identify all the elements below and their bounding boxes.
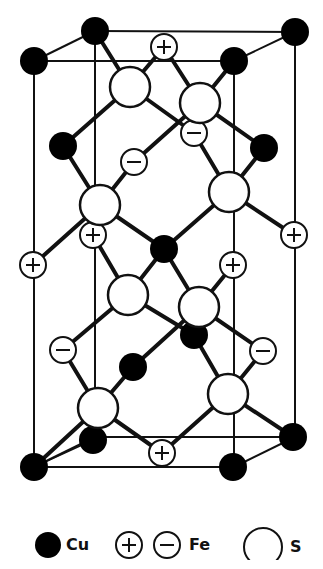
cu-9-atom xyxy=(119,353,147,381)
fe-plus-3-atom xyxy=(281,222,307,248)
cu-13-atom xyxy=(219,453,247,481)
legend: Cu Fe S xyxy=(0,520,323,560)
legend-symbols xyxy=(0,520,323,560)
fe-plus-1-atom xyxy=(151,34,177,60)
s-legend-label: S xyxy=(290,537,302,556)
s-6-atom xyxy=(179,287,219,327)
s-8-atom xyxy=(208,374,248,414)
fe-minus-4-atom xyxy=(250,338,276,364)
cu-legend-label: Cu xyxy=(66,535,89,554)
s-4-atom xyxy=(209,172,249,212)
s-5-atom xyxy=(108,275,148,315)
s-7-atom xyxy=(78,388,118,428)
fe-minus-2-atom xyxy=(121,149,147,175)
cu-legend-icon xyxy=(35,532,61,558)
cu-7-atom xyxy=(150,235,178,263)
fe-legend-label: Fe xyxy=(189,535,210,554)
cu-4-atom xyxy=(220,47,248,75)
fe-plus-5-atom xyxy=(220,252,246,278)
cu-12-atom xyxy=(20,453,48,481)
cell-edge xyxy=(95,31,295,32)
cu-11-atom xyxy=(279,423,307,451)
cu-2-atom xyxy=(281,18,309,46)
s-3-atom xyxy=(80,185,120,225)
s-legend-icon xyxy=(244,528,282,560)
cu-5-atom xyxy=(49,132,77,160)
fe-minus-3-atom xyxy=(50,337,76,363)
fe-plus-4-atom xyxy=(20,252,46,278)
fe-plus-6-atom xyxy=(149,440,175,466)
s-1-atom xyxy=(110,67,150,107)
s-2-atom xyxy=(180,83,220,123)
cu-3-atom xyxy=(20,47,48,75)
crystal-structure-diagram xyxy=(0,0,323,520)
cu-10-atom xyxy=(79,426,107,454)
cu-1-atom xyxy=(81,17,109,45)
cu-6-atom xyxy=(250,134,278,162)
